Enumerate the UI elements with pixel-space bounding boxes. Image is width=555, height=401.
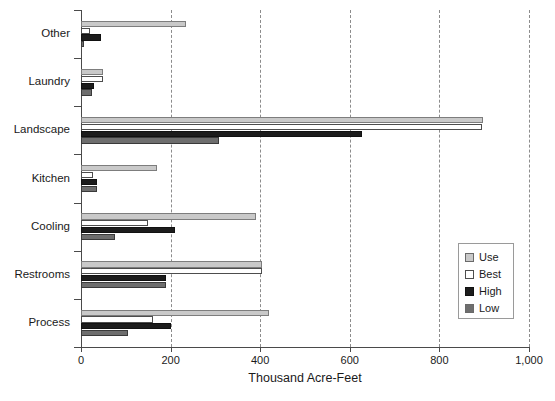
- category-label-text: Laundry: [28, 75, 70, 87]
- category-label-text: Cooling: [31, 220, 70, 232]
- x-tick-label-400: 400: [230, 354, 290, 366]
- bar-low-process: [81, 330, 128, 336]
- bar-low-restrooms: [81, 282, 166, 288]
- y-tick-6: [74, 10, 81, 11]
- bar-best-cooling: [81, 220, 148, 226]
- category-label-text: Restrooms: [14, 268, 70, 280]
- x-tick-label-200: 200: [141, 354, 201, 366]
- x-tick-label-0: 0: [51, 354, 111, 366]
- bar-low-laundry: [81, 89, 92, 95]
- bar-high-cooling: [81, 227, 175, 233]
- y-tick-3: [74, 154, 81, 155]
- bar-high-laundry: [81, 83, 94, 89]
- x-tick-label-800: 800: [409, 354, 469, 366]
- legend-label-low: Low: [479, 303, 499, 314]
- bar-use-other: [81, 21, 186, 27]
- category-label-text: Landscape: [14, 123, 70, 135]
- bar-use-cooling: [81, 213, 256, 219]
- bar-use-laundry: [81, 69, 103, 75]
- x-tick-1000: [529, 347, 530, 352]
- legend-swatch-low: [465, 304, 474, 313]
- x-tick-400: [260, 347, 261, 352]
- bar-high-other: [81, 34, 101, 40]
- legend-item-high: High: [465, 283, 513, 300]
- bar-chart: 02004006008001,000 ProcessRestroomsCooli…: [0, 0, 555, 401]
- gridline-1000: [529, 10, 530, 347]
- legend-label-best: Best: [479, 269, 501, 280]
- bar-best-kitchen: [81, 172, 93, 178]
- bar-best-process: [81, 316, 153, 322]
- x-axis-title: Thousand Acre-Feet: [81, 371, 529, 385]
- x-tick-200: [171, 347, 172, 352]
- legend-item-use: Use: [465, 249, 513, 266]
- bar-low-landscape: [81, 137, 219, 143]
- bar-low-other: [81, 41, 84, 47]
- bar-low-cooling: [81, 234, 115, 240]
- bar-best-landscape: [81, 124, 482, 130]
- bar-best-other: [81, 28, 90, 34]
- bar-high-restrooms: [81, 275, 166, 281]
- y-tick-0: [74, 299, 81, 300]
- category-label-text: Process: [28, 316, 70, 328]
- bar-use-landscape: [81, 117, 483, 123]
- bar-best-restrooms: [81, 268, 262, 274]
- bar-high-kitchen: [81, 179, 97, 185]
- x-tick-600: [350, 347, 351, 352]
- legend-swatch-use: [465, 253, 474, 262]
- x-tick-label-1000: 1,000: [499, 354, 555, 366]
- bar-use-kitchen: [81, 165, 157, 171]
- bar-use-process: [81, 310, 269, 316]
- x-tick-800: [439, 347, 440, 352]
- category-label-text: Other: [41, 27, 70, 39]
- legend-swatch-high: [465, 287, 474, 296]
- y-tick-2: [74, 203, 81, 204]
- bar-high-process: [81, 323, 171, 329]
- x-tick-label-600: 600: [320, 354, 380, 366]
- y-tick-end: [74, 347, 81, 348]
- legend-label-high: High: [479, 286, 502, 297]
- bar-best-laundry: [81, 76, 103, 82]
- y-tick-5: [74, 58, 81, 59]
- x-axis-line: [81, 347, 529, 348]
- legend-item-best: Best: [465, 266, 513, 283]
- bar-high-landscape: [81, 131, 362, 137]
- bar-low-kitchen: [81, 186, 97, 192]
- x-tick-0: [81, 347, 82, 352]
- legend-item-low: Low: [465, 300, 513, 317]
- bar-use-restrooms: [81, 261, 262, 267]
- legend-label-use: Use: [479, 252, 499, 263]
- y-tick-4: [74, 106, 81, 107]
- category-label-text: Kitchen: [32, 172, 70, 184]
- legend-swatch-best: [465, 270, 474, 279]
- y-tick-1: [74, 251, 81, 252]
- chart-legend: Use Best High Low: [458, 243, 514, 319]
